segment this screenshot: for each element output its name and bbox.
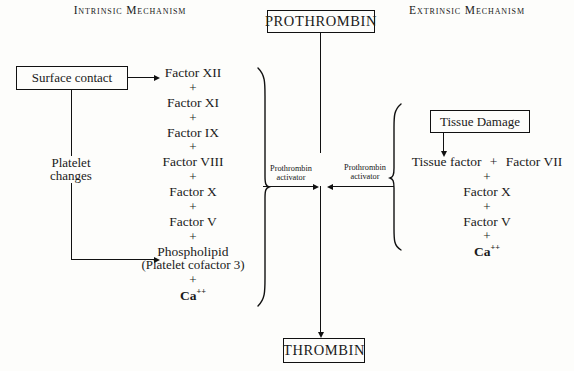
right-activator-line-2: activator xyxy=(336,172,394,181)
prothrombin-to-thrombin-arrow xyxy=(320,186,321,332)
cascade-item-phospholipid: Phospholipid xyxy=(128,245,258,259)
coagulation-cascade-diagram: Intrinsic Mechanism Extrinsic Mechanism … xyxy=(0,0,574,371)
cascade-item-factor-viii: Factor VIII xyxy=(128,155,258,169)
plus-sign: + xyxy=(128,169,258,185)
tissue-damage-to-tissue-factor-arrow xyxy=(443,133,444,151)
tissue-damage-box: Tissue Damage xyxy=(430,110,530,133)
right-prothrombin-activator-label: Prothrombin activator xyxy=(336,163,394,182)
plus-sign: + xyxy=(400,199,574,215)
cascade-item-factor-v: Factor V xyxy=(128,215,258,229)
calcium-charge: ++ xyxy=(490,243,500,252)
cascade-item-calcium: Ca++ xyxy=(128,288,258,302)
cascade-item-calcium: Ca++ xyxy=(400,244,574,258)
plus-sign: + xyxy=(128,199,258,215)
prothrombin-spine-upper xyxy=(320,33,321,153)
plus-sign: + xyxy=(128,80,258,96)
platelet-changes-line-1: Platelet xyxy=(28,156,114,169)
left-prothrombin-activator-arrow xyxy=(263,186,313,187)
cascade-item-factor-x: Factor X xyxy=(400,185,574,199)
cascade-item-factor-xi: Factor XI xyxy=(128,96,258,110)
platelet-changes-line-2: changes xyxy=(28,169,114,182)
calcium-symbol: Ca xyxy=(180,287,197,302)
cascade-item-factor-x: Factor X xyxy=(128,185,258,199)
prothrombin-box: PROTHROMBIN xyxy=(267,10,375,33)
plus-sign: + xyxy=(400,169,574,185)
cascade-item-factor-xii: Factor XII xyxy=(128,66,258,80)
extrinsic-mechanism-header: Extrinsic Mechanism xyxy=(392,4,542,16)
phospholipid-subtitle: (Platelet cofactor 3) xyxy=(128,258,258,271)
plus-sign: + xyxy=(128,229,258,245)
calcium-symbol: Ca xyxy=(474,244,491,259)
plus-sign: + xyxy=(128,110,258,126)
thrombin-box: THROMBIN xyxy=(283,338,365,363)
tissue-factor-row: Tissue factor + Factor VII xyxy=(400,155,574,169)
left-activator-line-2: activator xyxy=(262,173,320,182)
plus-sign: + xyxy=(128,272,258,288)
left-prothrombin-activator-label: Prothrombin activator xyxy=(262,164,320,183)
extrinsic-cascade-list: Tissue factor + Factor VII + Factor X + … xyxy=(400,155,574,259)
factor-vii-label: Factor VII xyxy=(506,154,562,169)
plus-sign: + xyxy=(485,154,503,169)
right-activator-line-1: Prothrombin xyxy=(336,163,394,172)
plus-sign: + xyxy=(400,228,574,244)
cascade-item-factor-v: Factor V xyxy=(400,215,574,229)
intrinsic-mechanism-header: Intrinsic Mechanism xyxy=(60,4,200,16)
tissue-factor-label: Tissue factor xyxy=(412,154,482,169)
calcium-charge: ++ xyxy=(196,287,206,296)
intrinsic-cascade-list: Factor XII + Factor XI + Factor IX + Fac… xyxy=(128,66,258,302)
right-prothrombin-activator-arrow xyxy=(333,186,394,187)
plus-sign: + xyxy=(128,139,258,155)
left-activator-line-1: Prothrombin xyxy=(262,164,320,173)
surface-contact-box: Surface contact xyxy=(16,66,128,90)
platelet-changes-label: Platelet changes xyxy=(28,156,114,183)
cascade-item-factor-ix: Factor IX xyxy=(128,126,258,140)
